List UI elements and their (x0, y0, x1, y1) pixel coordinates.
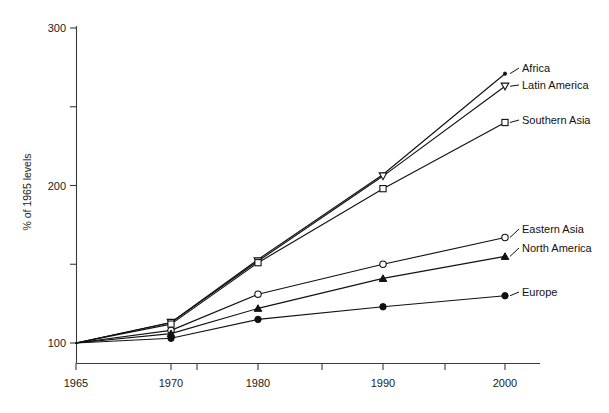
data-point-marker (503, 72, 506, 75)
series-line-eastern-asia (76, 238, 505, 344)
y-axis-title: % of 1965 levels (21, 153, 33, 230)
series-label-southern-asia: Southern Asia (522, 114, 591, 126)
leader-line-north-america (510, 248, 519, 256)
data-point-marker (168, 335, 174, 341)
series-line-southern-asia (76, 123, 505, 344)
x-tick-label: 1970 (159, 377, 183, 389)
series-label-africa: Africa (522, 62, 551, 74)
leader-line-europe (510, 292, 519, 296)
data-point-marker (380, 261, 386, 267)
series-lines (76, 74, 505, 343)
line-chart: 100200300 % of 1965 levels 1965197019801… (0, 0, 609, 413)
data-point-marker (380, 186, 386, 192)
y-axis-ticks (70, 28, 76, 343)
leader-line-africa (510, 68, 519, 74)
leader-line-latin-america (510, 85, 519, 86)
series-labels: AfricaLatin AmericaSouthern AsiaEastern … (522, 62, 593, 298)
series-label-north-america: North America (522, 242, 593, 254)
series-label-europe: Europe (522, 286, 557, 298)
x-tick-label: 1980 (246, 377, 270, 389)
series-line-europe (76, 296, 505, 343)
y-tick-label: 200 (48, 180, 66, 192)
x-tick-label: 1990 (371, 377, 395, 389)
x-axis: 19651970198019902000 (64, 363, 540, 389)
x-axis-tick-labels: 19651970198019902000 (64, 377, 517, 389)
data-point-marker (502, 293, 508, 299)
y-tick-label: 300 (48, 22, 66, 34)
data-point-marker (255, 260, 261, 266)
data-point-marker (501, 253, 509, 260)
leader-line-southern-asia (510, 120, 519, 123)
data-point-marker (502, 119, 508, 125)
data-point-marker (502, 234, 508, 240)
chart-container: 100200300 % of 1965 levels 1965197019801… (0, 0, 609, 413)
series-line-africa (76, 74, 505, 343)
data-point-marker (380, 304, 386, 310)
series-label-latin-america: Latin America (522, 79, 590, 91)
data-point-marker (168, 321, 174, 327)
x-tick-label: 1965 (64, 377, 88, 389)
data-point-marker (255, 291, 261, 297)
leader-line-eastern-asia (510, 229, 519, 237)
series-label-eastern-asia: Eastern Asia (522, 223, 585, 235)
y-axis-tick-labels: 100200300 (48, 22, 66, 349)
y-tick-label: 100 (48, 337, 66, 349)
y-axis: 100200300 % of 1965 levels (21, 22, 77, 363)
series-line-latin-america (76, 86, 505, 343)
data-point-marker (255, 316, 261, 322)
x-tick-label: 2000 (493, 377, 517, 389)
series-leaders (510, 68, 519, 296)
